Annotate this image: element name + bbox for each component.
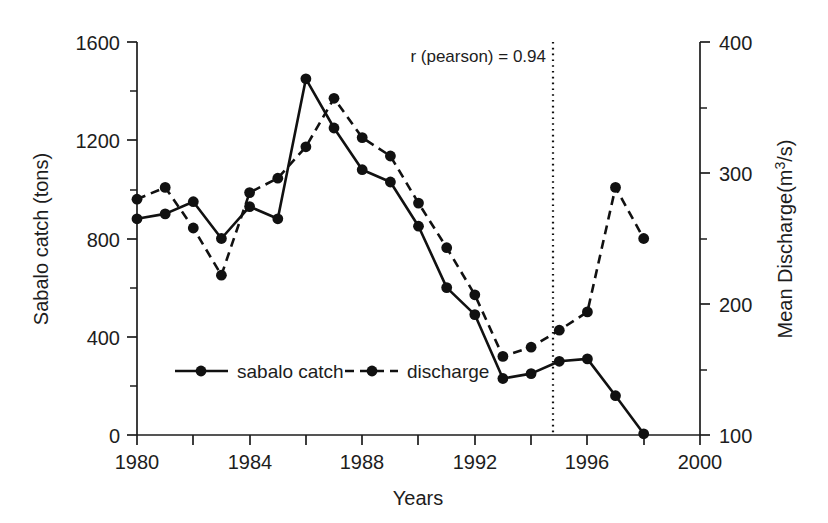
data-point [329, 93, 340, 104]
xtick-label-1988: 1988 [340, 451, 385, 473]
data-point [554, 356, 565, 367]
ytick-label-400: 400 [87, 327, 120, 349]
chart-svg: 0 400 800 1200 1600 100 200 300 400 [0, 0, 828, 523]
data-point [413, 221, 424, 232]
data-point [638, 233, 649, 244]
xtick-label-1984: 1984 [228, 451, 273, 473]
y2-axis-title: Mean Discharge(m3/s) [772, 140, 796, 339]
legend-item-discharge: discharge [345, 361, 489, 382]
data-point [272, 173, 283, 184]
series-line [137, 79, 644, 434]
series-discharge [132, 93, 650, 362]
x-axis-title: Years [393, 487, 443, 509]
right-axis: 100 200 300 400 [700, 32, 752, 447]
data-point [385, 177, 396, 188]
data-point [329, 123, 340, 134]
data-point [498, 351, 509, 362]
data-point [610, 182, 621, 193]
legend-marker-circle [367, 366, 378, 377]
legend-label-sabalo-catch: sabalo catch [237, 361, 344, 382]
data-point [301, 141, 312, 152]
data-point [498, 373, 509, 384]
data-point [216, 270, 227, 281]
data-point [638, 428, 649, 439]
data-point [582, 354, 593, 365]
data-point [160, 209, 171, 220]
data-point [469, 309, 480, 320]
data-point [244, 187, 255, 198]
y2tick-label-300: 300 [719, 163, 752, 185]
data-point [526, 342, 537, 353]
y2tick-label-400: 400 [719, 32, 752, 54]
x-axis: 1980 1984 1988 1992 1996 2000 [115, 435, 723, 473]
xtick-label-1996: 1996 [565, 451, 610, 473]
svg-text:Mean Discharge(m3/s): Mean Discharge(m3/s) [772, 140, 796, 339]
y-axis-title: Sabalo catch (tons) [30, 153, 52, 325]
data-point [188, 196, 199, 207]
y2-title-post: /s) [774, 140, 796, 162]
xtick-label-2000: 2000 [678, 451, 723, 473]
data-point [357, 132, 368, 143]
y2tick-label-200: 200 [719, 294, 752, 316]
data-point [385, 151, 396, 162]
y2tick-label-100: 100 [719, 425, 752, 447]
data-point [301, 73, 312, 84]
pearson-correlation-label: r (pearson) = 0.94 [410, 47, 546, 66]
plot-data-layer [132, 73, 650, 439]
chart-legend: sabalo catch discharge [175, 361, 489, 382]
data-point [272, 213, 283, 224]
legend-item-sabalo-catch: sabalo catch [175, 361, 344, 382]
data-point [441, 242, 452, 253]
data-point [554, 325, 565, 336]
data-point [469, 289, 480, 300]
data-point [526, 368, 537, 379]
legend-label-discharge: discharge [407, 361, 489, 382]
data-point [132, 194, 143, 205]
xtick-label-1992: 1992 [453, 451, 498, 473]
ytick-label-1200: 1200 [76, 130, 121, 152]
chart-figure: 0 400 800 1200 1600 100 200 300 400 [0, 0, 828, 523]
ytick-label-1600: 1600 [76, 32, 121, 54]
legend-marker-circle [196, 366, 207, 377]
data-point [216, 233, 227, 244]
data-point [132, 213, 143, 224]
y2-title-pre: Mean Discharge(m [774, 170, 796, 339]
data-point [357, 164, 368, 175]
data-point [160, 182, 171, 193]
xtick-label-1980: 1980 [115, 451, 160, 473]
data-point [188, 223, 199, 234]
ytick-label-800: 800 [87, 229, 120, 251]
ytick-label-0: 0 [109, 425, 120, 447]
left-axis: 0 400 800 1200 1600 [76, 32, 138, 447]
data-point [610, 390, 621, 401]
y2-title-sup: 3 [772, 162, 788, 170]
data-point [441, 282, 452, 293]
data-point [413, 198, 424, 209]
data-point [582, 307, 593, 318]
